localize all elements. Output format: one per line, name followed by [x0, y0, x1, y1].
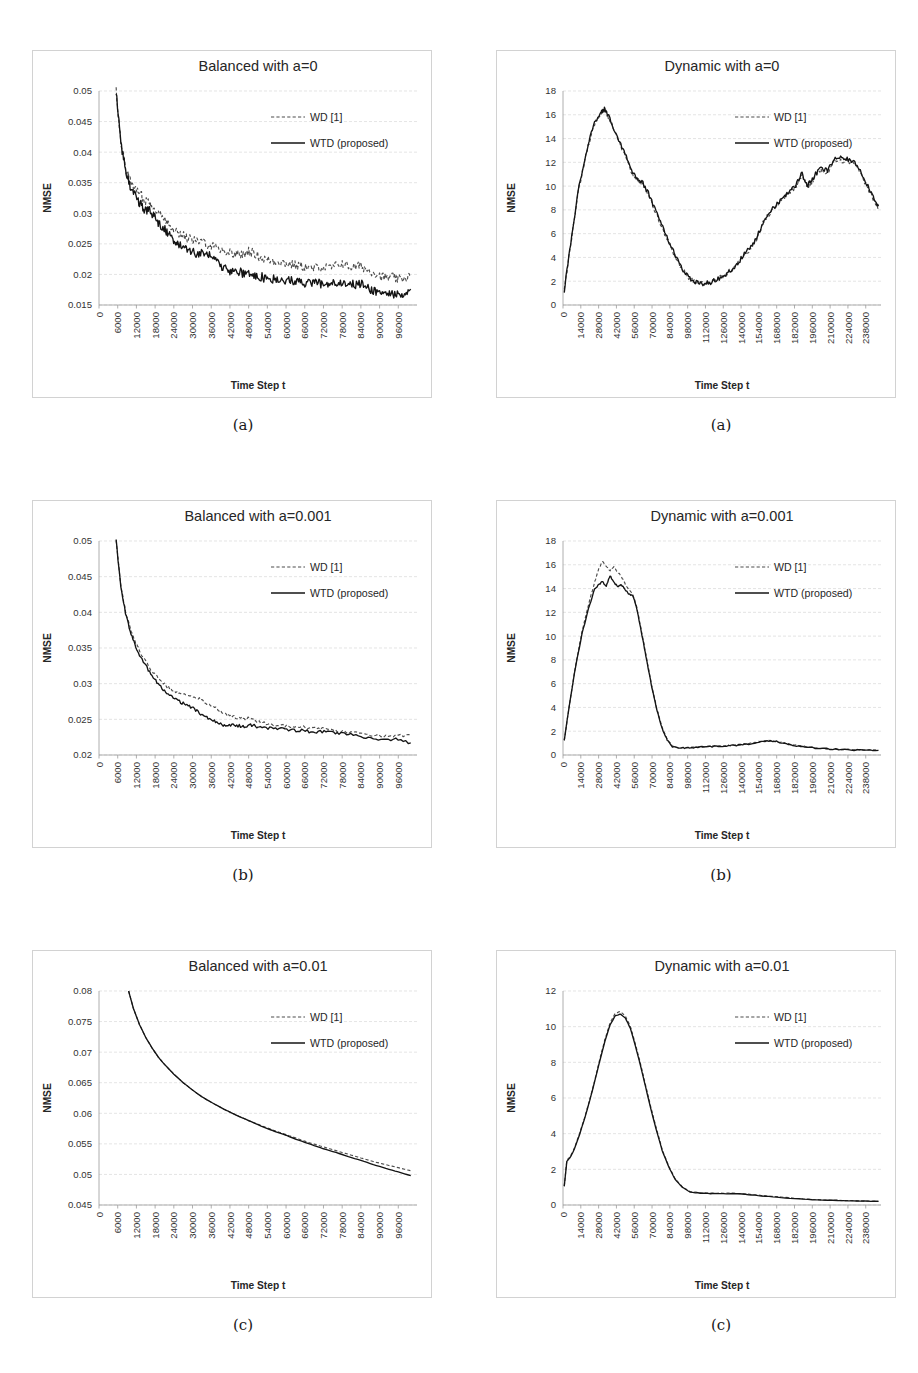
svg-text:10: 10 — [545, 1021, 556, 1032]
svg-text:154000: 154000 — [753, 1212, 764, 1244]
svg-text:14: 14 — [545, 583, 556, 594]
svg-text:90000: 90000 — [374, 1212, 385, 1239]
svg-text:48000: 48000 — [243, 312, 254, 339]
panel-caption: (a) — [458, 416, 918, 434]
svg-text:14000: 14000 — [575, 762, 586, 789]
figure-page: Balanced with a=00.0150.020.0250.030.035… — [0, 0, 918, 1373]
svg-text:24000: 24000 — [168, 762, 179, 789]
svg-text:0.04: 0.04 — [73, 147, 92, 158]
figure-panel-balanced-a001: Balanced with a=0.0010.020.0250.030.0350… — [14, 480, 460, 930]
svg-text:8: 8 — [551, 654, 556, 665]
svg-text:36000: 36000 — [206, 762, 217, 789]
svg-text:0.045: 0.045 — [68, 1199, 92, 1210]
svg-text:12: 12 — [545, 607, 556, 618]
chart-balanced-a001: Balanced with a=0.0010.020.0250.030.0350… — [32, 500, 432, 848]
svg-text:112000: 112000 — [700, 762, 711, 793]
svg-text:0.055: 0.055 — [68, 1138, 92, 1149]
figure-panel-balanced-a0: Balanced with a=00.0150.020.0250.030.035… — [14, 30, 460, 480]
svg-text:154000: 154000 — [753, 312, 764, 344]
svg-text:0.05: 0.05 — [73, 535, 92, 546]
svg-text:42000: 42000 — [611, 1212, 622, 1239]
chart-dynamic-a01: Dynamic with a=0.01024681012014000280004… — [496, 950, 896, 1298]
svg-text:72000: 72000 — [318, 1212, 329, 1239]
svg-text:98000: 98000 — [682, 1212, 693, 1239]
svg-text:238000: 238000 — [860, 312, 871, 344]
svg-text:56000: 56000 — [629, 312, 640, 339]
svg-text:168000: 168000 — [771, 762, 782, 794]
svg-text:98000: 98000 — [682, 762, 693, 789]
svg-text:112000: 112000 — [700, 312, 711, 343]
svg-text:210000: 210000 — [825, 1212, 836, 1244]
svg-text:8: 8 — [551, 204, 556, 215]
svg-text:0: 0 — [551, 1199, 556, 1210]
svg-text:36000: 36000 — [206, 1212, 217, 1239]
svg-text:6: 6 — [551, 678, 556, 689]
figure-panel-balanced-a01: Balanced with a=0.010.0450.050.0550.060.… — [14, 930, 460, 1373]
svg-text:2: 2 — [551, 1164, 556, 1175]
svg-text:54000: 54000 — [262, 1212, 273, 1239]
svg-text:48000: 48000 — [243, 1212, 254, 1239]
svg-text:0: 0 — [558, 312, 569, 317]
svg-text:NMSE: NMSE — [42, 183, 53, 213]
svg-text:Dynamic with a=0: Dynamic with a=0 — [665, 58, 780, 74]
svg-text:24000: 24000 — [168, 312, 179, 339]
svg-text:90000: 90000 — [374, 762, 385, 789]
svg-text:96000: 96000 — [393, 762, 404, 789]
svg-text:42000: 42000 — [611, 312, 622, 339]
svg-text:WTD (proposed): WTD (proposed) — [310, 1037, 388, 1049]
svg-text:24000: 24000 — [168, 1212, 179, 1239]
svg-text:0.025: 0.025 — [68, 238, 92, 249]
svg-text:WD [1]: WD [1] — [774, 1011, 806, 1023]
svg-text:0.045: 0.045 — [68, 571, 92, 582]
svg-text:70000: 70000 — [647, 312, 658, 339]
svg-text:84000: 84000 — [355, 762, 366, 789]
svg-text:28000: 28000 — [593, 762, 604, 789]
svg-text:60000: 60000 — [281, 312, 292, 339]
svg-text:WD [1]: WD [1] — [774, 561, 806, 573]
svg-text:182000: 182000 — [789, 1212, 800, 1244]
svg-text:Balanced with a=0.001: Balanced with a=0.001 — [184, 508, 331, 524]
svg-text:196000: 196000 — [807, 762, 818, 794]
svg-text:2: 2 — [551, 276, 556, 287]
svg-text:0: 0 — [551, 299, 556, 310]
svg-text:30000: 30000 — [187, 1212, 198, 1239]
svg-text:18000: 18000 — [150, 1212, 161, 1239]
svg-text:66000: 66000 — [299, 1212, 310, 1239]
svg-text:12000: 12000 — [131, 762, 142, 789]
svg-text:78000: 78000 — [337, 312, 348, 339]
svg-text:0: 0 — [551, 749, 556, 760]
svg-text:WD [1]: WD [1] — [310, 1011, 342, 1023]
svg-text:42000: 42000 — [225, 312, 236, 339]
svg-text:196000: 196000 — [807, 1212, 818, 1244]
panel-caption: (b) — [14, 866, 466, 884]
svg-text:30000: 30000 — [187, 762, 198, 789]
svg-text:210000: 210000 — [825, 762, 836, 794]
svg-text:140000: 140000 — [736, 312, 747, 344]
svg-text:48000: 48000 — [243, 762, 254, 789]
svg-text:18: 18 — [545, 85, 556, 96]
svg-text:168000: 168000 — [771, 1212, 782, 1244]
svg-text:126000: 126000 — [718, 1212, 729, 1244]
svg-text:NMSE: NMSE — [506, 183, 517, 213]
svg-text:98000: 98000 — [682, 312, 693, 339]
svg-text:66000: 66000 — [299, 312, 310, 339]
chart-dynamic-a0: Dynamic with a=0024681012141618014000280… — [496, 50, 896, 398]
svg-text:0.035: 0.035 — [68, 642, 92, 653]
svg-text:Time Step t: Time Step t — [695, 830, 750, 841]
svg-text:WD [1]: WD [1] — [774, 111, 806, 123]
svg-text:0.045: 0.045 — [68, 116, 92, 127]
svg-text:0.08: 0.08 — [73, 985, 92, 996]
svg-text:16: 16 — [545, 109, 556, 120]
svg-text:WTD (proposed): WTD (proposed) — [774, 1037, 852, 1049]
figure-panel-dynamic-a01: Dynamic with a=0.01024681012014000280004… — [458, 930, 904, 1373]
svg-text:6000: 6000 — [112, 312, 123, 333]
svg-text:84000: 84000 — [355, 312, 366, 339]
svg-text:112000: 112000 — [700, 1212, 711, 1243]
svg-text:42000: 42000 — [225, 762, 236, 789]
svg-text:28000: 28000 — [593, 1212, 604, 1239]
svg-text:12: 12 — [545, 157, 556, 168]
svg-text:224000: 224000 — [843, 1212, 854, 1244]
svg-text:WTD (proposed): WTD (proposed) — [774, 137, 852, 149]
svg-text:0.05: 0.05 — [73, 85, 92, 96]
svg-text:NMSE: NMSE — [506, 1083, 517, 1113]
